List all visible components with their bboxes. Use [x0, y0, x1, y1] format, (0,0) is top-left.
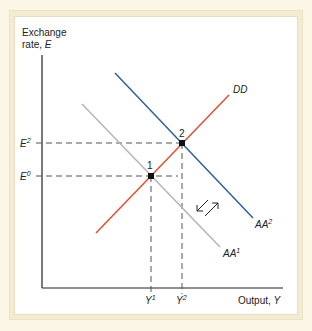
y2-label: Y2 [176, 294, 187, 306]
dd-label: DD [233, 84, 247, 95]
aa1-label: AA1 [222, 247, 240, 259]
e2-label: E2 [20, 137, 31, 149]
equilibrium-point-1 [148, 173, 154, 179]
y1-label: Y1 [145, 294, 156, 306]
point-1-label: 1 [147, 160, 153, 171]
aa2-label: AA2 [254, 218, 272, 230]
equilibrium-point-2 [179, 140, 185, 146]
shift-arrows-icon [197, 200, 218, 216]
y-axis-label-line2: rate, E [22, 39, 52, 50]
e0-label: E0 [20, 170, 31, 182]
dd-aa-diagram: Exchange rate, E Output, Y E2 E0 Y1 Y2 D… [0, 0, 312, 331]
y-axis-label-line1: Exchange [22, 27, 67, 38]
point-2-label: 2 [179, 128, 185, 139]
x-axis-label: Output, Y [238, 295, 282, 306]
